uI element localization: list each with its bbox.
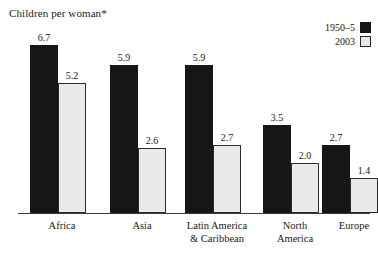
- plot-area: 6.75.2Africa5.92.6Asia5.92.7Latin Americ…: [0, 0, 378, 258]
- bar-value-label: 2.7: [330, 132, 343, 143]
- bar-item[interactable]: 2.6: [138, 45, 166, 213]
- category-label: Europe: [298, 219, 378, 232]
- bar-item[interactable]: 5.9: [185, 45, 213, 213]
- bar-rect[interactable]: [110, 65, 138, 213]
- bar-value-label: 5.9: [118, 52, 131, 63]
- x-axis-line: [18, 213, 370, 214]
- bar-rect[interactable]: [138, 148, 166, 213]
- bar-item[interactable]: 1.4: [350, 45, 378, 213]
- bar-rect[interactable]: [350, 178, 378, 213]
- chart-container: Children per woman* 1950–5 2003 6.75.2Af…: [0, 0, 378, 258]
- bar-item[interactable]: 5.2: [58, 45, 86, 213]
- bar-pair: 5.92.6: [110, 45, 166, 213]
- category-label-line: Europe: [298, 219, 378, 232]
- bar-item[interactable]: 6.7: [30, 45, 58, 213]
- bar-rect[interactable]: [263, 125, 291, 213]
- bar-rect[interactable]: [185, 65, 213, 213]
- bar-value-label: 3.5: [271, 112, 284, 123]
- bar-item[interactable]: 5.9: [110, 45, 138, 213]
- bar-pair: 2.71.4: [322, 45, 378, 213]
- bar-value-label: 2.7: [221, 132, 234, 143]
- bar-pair: 5.92.7: [185, 45, 241, 213]
- bar-item[interactable]: 3.5: [263, 45, 291, 213]
- bar-rect[interactable]: [322, 145, 350, 213]
- bar-pair: 3.52.0: [263, 45, 319, 213]
- bar-rect[interactable]: [213, 145, 241, 213]
- bar-item[interactable]: 2.7: [322, 45, 350, 213]
- bar-value-label: 2.0: [299, 150, 312, 161]
- bar-item[interactable]: 2.7: [213, 45, 241, 213]
- category-label-line: America: [239, 232, 351, 245]
- bar-rect[interactable]: [30, 45, 58, 213]
- bar-item[interactable]: 2.0: [291, 45, 319, 213]
- bar-value-label: 5.9: [193, 52, 206, 63]
- bar-value-label: 6.7: [38, 32, 51, 43]
- bar-pair: 6.75.2: [30, 45, 86, 213]
- bar-value-label: 5.2: [66, 70, 79, 81]
- bar-rect[interactable]: [58, 83, 86, 213]
- bar-rect[interactable]: [291, 163, 319, 213]
- bar-value-label: 2.6: [146, 135, 159, 146]
- bar-value-label: 1.4: [358, 165, 371, 176]
